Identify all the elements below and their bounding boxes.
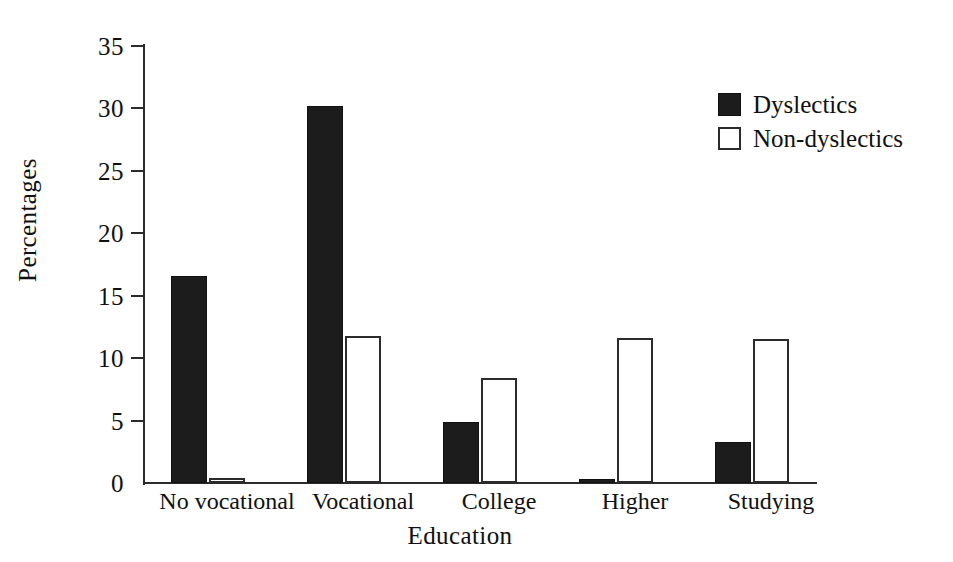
bar-studying-non-dyslectics — [753, 339, 789, 483]
y-tick-label: 35 — [84, 34, 124, 59]
legend-item-non-dyslectics: Non-dyslectics — [718, 122, 903, 154]
bar-vocational-dyslectics — [307, 106, 343, 483]
legend-item-dyslectics: Dyslectics — [718, 88, 903, 120]
y-tick-label: 20 — [84, 221, 124, 246]
x-category-label: Studying — [691, 489, 851, 513]
bar-studying-dyslectics — [715, 442, 751, 483]
bar-college-non-dyslectics — [481, 378, 517, 483]
bar-higher-dyslectics — [579, 479, 615, 483]
y-tick-label: 5 — [84, 409, 124, 434]
y-tick-label: 10 — [84, 346, 124, 371]
y-tick-label: 25 — [84, 159, 124, 184]
plot-area — [143, 40, 817, 483]
y-tick-label: 30 — [84, 96, 124, 121]
bar-college-dyslectics — [443, 422, 479, 483]
legend: Dyslectics Non-dyslectics — [718, 88, 903, 156]
bar-no-vocational-non-dyslectics — [209, 478, 245, 483]
legend-swatch-dyslectics-icon — [718, 93, 741, 116]
legend-label-dyslectics: Dyslectics — [753, 92, 857, 117]
y-axis-title: Percentages — [14, 100, 42, 340]
bar-vocational-non-dyslectics — [345, 336, 381, 483]
bar-higher-non-dyslectics — [617, 338, 653, 483]
x-axis-title: Education — [335, 522, 585, 550]
legend-label-non-dyslectics: Non-dyslectics — [753, 126, 903, 151]
y-tick-label: 15 — [84, 284, 124, 309]
legend-swatch-non-dyslectics-icon — [718, 127, 741, 150]
y-tick-label: 0 — [84, 471, 124, 496]
bar-no-vocational-dyslectics — [171, 276, 207, 483]
bar-chart-figure: 05101520253035 Percentages No vocational… — [0, 0, 953, 562]
